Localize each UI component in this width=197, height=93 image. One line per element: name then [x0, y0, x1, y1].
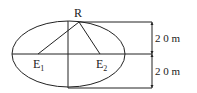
line-r-e1 [38, 22, 79, 54]
lower-dimension-label: 2 0 m [155, 65, 181, 77]
ellipse-diagram: R E1 E2 2 0 m 2 0 m [0, 0, 197, 93]
upper-dimension-label: 2 0 m [155, 32, 181, 44]
label-r: R [74, 6, 82, 20]
line-r-e2 [79, 22, 100, 54]
label-e2: E2 [96, 57, 107, 73]
label-e1: E1 [33, 57, 44, 73]
